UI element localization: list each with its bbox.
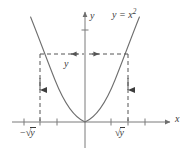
curve-equation-exponent: 2 — [133, 8, 137, 16]
segment-length-label: y — [64, 59, 68, 69]
radicand-negative: y — [30, 127, 35, 139]
y-axis-label: y — [90, 11, 94, 21]
curve-equation-base: y = x — [112, 9, 133, 20]
x-tick-label-negative-root: −√y — [20, 127, 36, 139]
x-axis-label: x — [175, 114, 179, 124]
radicand-positive: y — [120, 127, 125, 139]
vertical-drop-lines — [40, 54, 128, 122]
x-tick-label-positive-root: √y — [115, 127, 125, 139]
figure-container: y x y = x2 y −√y √y — [0, 0, 187, 152]
curve-equation-label: y = x2 — [112, 9, 136, 20]
